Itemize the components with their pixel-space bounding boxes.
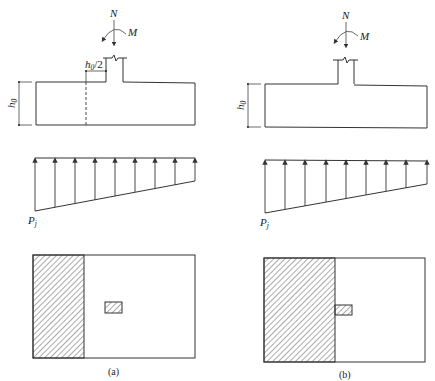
pressure-diagram-b: Pj bbox=[259, 160, 427, 230]
pressure-label: Pj bbox=[259, 216, 269, 230]
moment-arrow-icon bbox=[103, 29, 126, 40]
panel-a: N M h0/2 h0 bbox=[5, 7, 195, 378]
panel-b: N M h0 bbox=[234, 9, 427, 381]
elevation-b: N M h0 bbox=[234, 9, 427, 128]
footing-outline bbox=[265, 84, 427, 128]
hatched-region bbox=[264, 258, 335, 362]
footing-diagram: N M h0/2 h0 bbox=[0, 0, 435, 381]
column-section bbox=[105, 302, 122, 313]
column-section bbox=[335, 305, 352, 315]
depth-label: h0 bbox=[5, 99, 19, 109]
pressure-label: Pj bbox=[27, 214, 37, 228]
load-label: N bbox=[341, 9, 350, 21]
moment-label: M bbox=[127, 26, 138, 38]
pressure-diagram-a: Pj bbox=[27, 158, 195, 228]
plan-view-a: (a) bbox=[33, 255, 195, 378]
load-label: N bbox=[109, 7, 118, 19]
moment-label: M bbox=[359, 30, 370, 42]
moment-arrow-icon bbox=[335, 31, 358, 42]
elevation-a: N M h0/2 h0 bbox=[5, 7, 195, 125]
caption-a: (a) bbox=[108, 366, 119, 378]
hatched-region bbox=[33, 255, 84, 358]
caption-b: (b) bbox=[339, 369, 351, 381]
footing-outline bbox=[36, 82, 195, 125]
depth-label: h0 bbox=[234, 101, 248, 111]
plan-view-b: (b) bbox=[264, 258, 425, 381]
half-depth-label: h0/2 bbox=[85, 58, 103, 72]
